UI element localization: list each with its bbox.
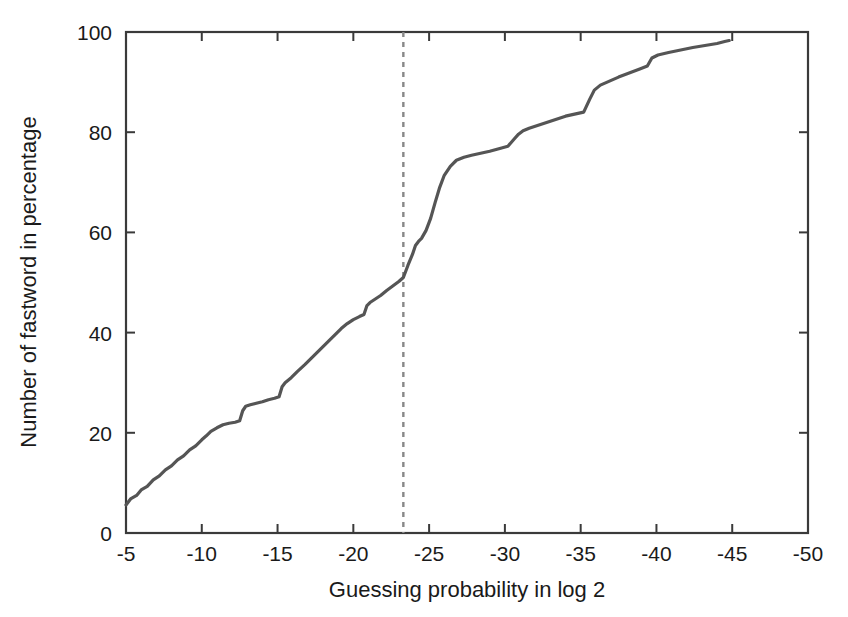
y-axis-title: Number of fastword in percentage xyxy=(16,116,41,447)
y-tick-label: 20 xyxy=(89,422,112,445)
y-tick-label: 60 xyxy=(89,221,112,244)
series-line xyxy=(126,41,729,505)
x-axis-title: Guessing probability in log 2 xyxy=(329,577,605,602)
y-tick-label: 0 xyxy=(100,522,112,545)
y-axis-tick-labels: 020406080100 xyxy=(77,21,112,545)
line-chart: -5-10-15-20-25-30-35-40-45-50 0204060801… xyxy=(0,0,848,617)
axis-layer xyxy=(126,32,808,533)
x-tick-label: -25 xyxy=(414,542,444,565)
figure-container: -5-10-15-20-25-30-35-40-45-50 0204060801… xyxy=(0,0,848,617)
plot-frame xyxy=(126,32,808,533)
x-tick-label: -5 xyxy=(117,542,136,565)
tick-marks xyxy=(126,32,808,533)
y-tick-label: 40 xyxy=(89,322,112,345)
data-series-layer xyxy=(126,41,729,505)
x-tick-label: -45 xyxy=(717,542,747,565)
x-tick-label: -50 xyxy=(793,542,823,565)
y-tick-label: 80 xyxy=(89,121,112,144)
x-tick-label: -35 xyxy=(565,542,595,565)
x-tick-label: -20 xyxy=(338,542,368,565)
x-axis-tick-labels: -5-10-15-20-25-30-35-40-45-50 xyxy=(117,542,824,565)
x-tick-label: -10 xyxy=(187,542,217,565)
x-tick-label: -15 xyxy=(262,542,292,565)
y-tick-label: 100 xyxy=(77,21,112,44)
x-tick-label: -30 xyxy=(490,542,520,565)
x-tick-label: -40 xyxy=(641,542,671,565)
